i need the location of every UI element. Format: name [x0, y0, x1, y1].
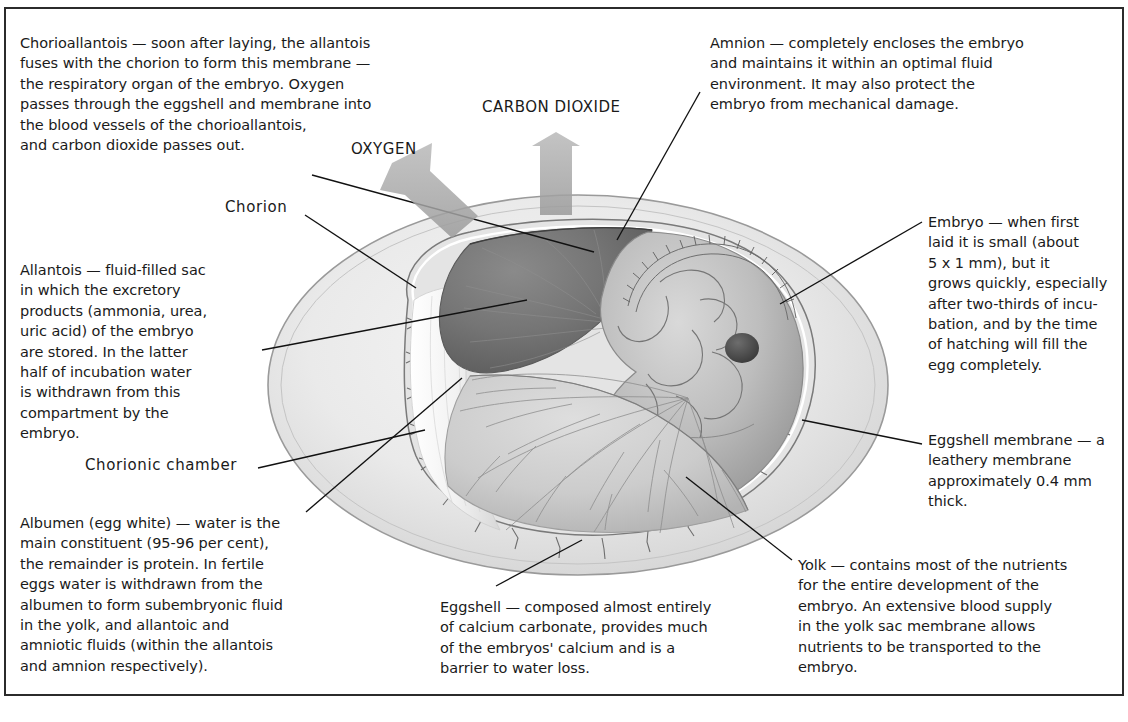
allantois-region [440, 228, 652, 373]
note-embryo: Embryo — when first laid it is small (ab… [928, 212, 1128, 375]
yolk-sac-region [445, 374, 748, 533]
label-oxygen: OXYGEN [351, 140, 417, 158]
note-chorioallantois: Chorioallantois — soon after laying, the… [20, 33, 420, 155]
leader-eggshell [496, 540, 582, 586]
amnion-and-embryo [595, 232, 803, 513]
note-eggshell: Eggshell — composed almost entirely of c… [440, 597, 750, 679]
label-chorionic-chamber: Chorionic chamber [85, 456, 237, 474]
frame-rule-left [4, 7, 6, 696]
eggshell-membrane-scallop [404, 219, 815, 559]
leader-yolk [686, 477, 792, 560]
note-amnion: Amnion — completely encloses the embryo … [710, 33, 1100, 115]
leader-eggshell-membrane [802, 420, 922, 444]
frame-rule-top [4, 7, 1124, 9]
eggshell-outline [268, 195, 888, 575]
note-yolk: Yolk — contains most of the nutrients fo… [798, 555, 1108, 677]
leader-allantois [262, 300, 527, 350]
leader-albumen [306, 378, 462, 512]
label-chorion: Chorion [225, 198, 287, 216]
yolk-blood-vessels [460, 374, 746, 533]
embryo-eye [725, 333, 759, 363]
diagram-page: Chorioallantois — soon after laying, the… [0, 0, 1128, 722]
carbon-dioxide-arrow [532, 132, 580, 215]
leader-chorionic-chamber [258, 430, 425, 468]
frame-rule-bottom [4, 694, 1124, 696]
chorionic-chamber-region [410, 286, 500, 530]
leader-embryo [780, 222, 922, 304]
note-allantois: Allantois — fluid-filled sac in which th… [20, 260, 260, 444]
note-eggshell-membrane: Eggshell membrane — a leathery membrane … [928, 430, 1128, 512]
note-albumen: Albumen (egg white) — water is the main … [20, 513, 320, 676]
leader-chorion [305, 215, 416, 288]
label-carbon-dioxide: CARBON DIOXIDE [482, 98, 621, 116]
leader-lines [258, 92, 922, 586]
leader-chorioallantois [312, 175, 594, 252]
leader-amnion [617, 92, 700, 240]
